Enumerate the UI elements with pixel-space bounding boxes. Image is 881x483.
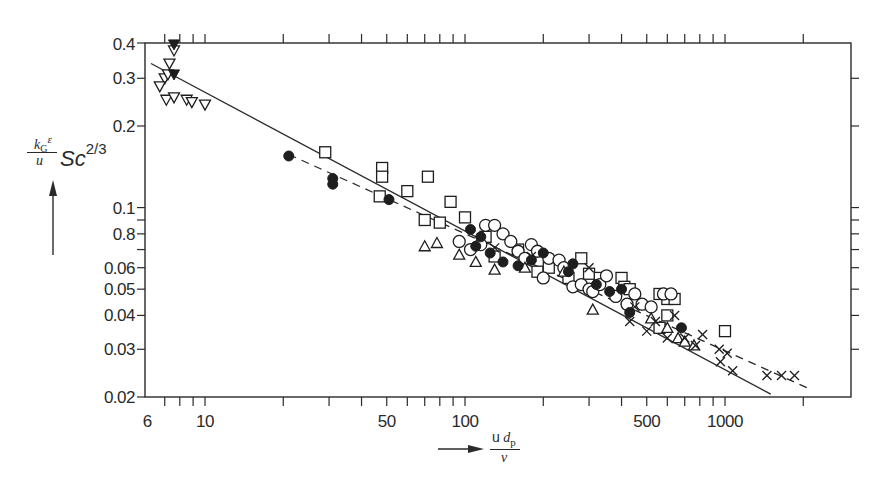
filled-circle-marker bbox=[676, 323, 686, 333]
x-axis-arrowhead-icon bbox=[468, 445, 484, 453]
cross-marker bbox=[762, 371, 771, 380]
open-square-marker bbox=[445, 196, 456, 207]
solid-fit-line bbox=[151, 64, 771, 395]
x-title-u: u bbox=[492, 429, 500, 445]
cross-marker bbox=[716, 357, 725, 366]
y-axis-arrowhead-icon bbox=[49, 180, 57, 196]
open-square-marker bbox=[419, 214, 430, 225]
x-tick-label: 50 bbox=[378, 412, 396, 431]
open-triangle-marker bbox=[419, 241, 430, 251]
filled-circle-marker bbox=[476, 232, 486, 242]
filled-circle-marker bbox=[498, 257, 508, 267]
filled-circle-marker bbox=[568, 259, 578, 269]
open-circle-marker bbox=[665, 288, 677, 300]
x-tick-label: 6 bbox=[143, 412, 152, 431]
y-title-epsilon: ε bbox=[47, 133, 51, 145]
open-triangle-marker bbox=[587, 304, 598, 314]
y-tick-label: 0.04 bbox=[104, 306, 135, 325]
cross-marker bbox=[790, 371, 799, 380]
y-tick-label: 0.05 bbox=[104, 280, 135, 299]
plot-area: 6105010050010000.40.30.20.10.80.060.050.… bbox=[0, 0, 881, 483]
open-down-triangle-marker bbox=[154, 82, 165, 92]
y-tick-label: 0.06 bbox=[104, 259, 135, 278]
y-tick-label: 0.4 bbox=[113, 35, 135, 54]
open-circle-marker bbox=[600, 270, 612, 282]
filled-circle-marker bbox=[591, 280, 601, 290]
x-tick-label: 10 bbox=[196, 412, 214, 431]
y-tick-label: 0.03 bbox=[104, 340, 135, 359]
filled-circle-marker bbox=[513, 261, 523, 271]
filled-circle-marker bbox=[605, 287, 615, 297]
x-axis-title: u dp ν bbox=[490, 430, 540, 478]
open-down-triangle-marker bbox=[200, 100, 211, 110]
y-tick-label: 0.02 bbox=[104, 388, 135, 407]
filled-circle-marker bbox=[617, 284, 627, 294]
y-tick-label: 0.1 bbox=[113, 199, 135, 218]
filled-circle-marker bbox=[328, 179, 338, 189]
filled-circle-marker bbox=[284, 151, 294, 161]
open-triangle-marker bbox=[431, 238, 442, 248]
filled-circle-marker bbox=[485, 248, 495, 258]
filled-circle-marker bbox=[466, 225, 476, 235]
open-square-marker bbox=[377, 171, 388, 182]
fit-lines bbox=[151, 64, 809, 395]
filled-circle-marker bbox=[538, 248, 548, 258]
open-square-marker bbox=[320, 147, 331, 158]
data-markers bbox=[154, 40, 799, 380]
filled-circle-marker bbox=[526, 255, 536, 265]
y-axis-title: kGε u Sc2/3 bbox=[26, 132, 136, 182]
filled-circle-marker bbox=[384, 195, 394, 205]
x-title-nu: ν bbox=[501, 451, 507, 465]
open-square-marker bbox=[434, 217, 445, 228]
open-down-triangle-marker bbox=[164, 59, 175, 69]
x-tick-label: 1000 bbox=[707, 412, 743, 431]
open-triangle-marker bbox=[454, 249, 465, 259]
open-square-marker bbox=[460, 212, 471, 223]
filled-circle-marker bbox=[625, 308, 635, 318]
y-title-sc: Sc bbox=[60, 146, 86, 171]
x-tick-label: 500 bbox=[633, 412, 660, 431]
filled-circle-marker bbox=[471, 241, 481, 251]
chart: 6105010050010000.40.30.20.10.80.060.050.… bbox=[0, 0, 881, 483]
cross-marker bbox=[698, 330, 707, 339]
y-title-exponent: 2/3 bbox=[86, 140, 107, 157]
open-square-marker bbox=[584, 268, 595, 279]
cross-marker bbox=[663, 334, 672, 343]
y-title-u: u bbox=[36, 154, 43, 168]
x-title-sub-p: p bbox=[510, 436, 516, 448]
open-triangle-marker bbox=[470, 256, 481, 266]
x-tick-label: 100 bbox=[452, 412, 479, 431]
y-tick-label: 0.8 bbox=[113, 225, 135, 244]
cross-marker bbox=[777, 371, 786, 380]
open-circle-marker bbox=[629, 288, 641, 300]
open-square-marker bbox=[720, 326, 731, 337]
open-circle-marker bbox=[645, 301, 657, 313]
open-circle-marker bbox=[537, 272, 549, 284]
open-square-marker bbox=[422, 171, 433, 182]
y-tick-label: 0.3 bbox=[113, 69, 135, 88]
open-square-marker bbox=[402, 186, 413, 197]
open-triangle-marker bbox=[489, 264, 500, 274]
open-circle-marker bbox=[453, 235, 465, 247]
